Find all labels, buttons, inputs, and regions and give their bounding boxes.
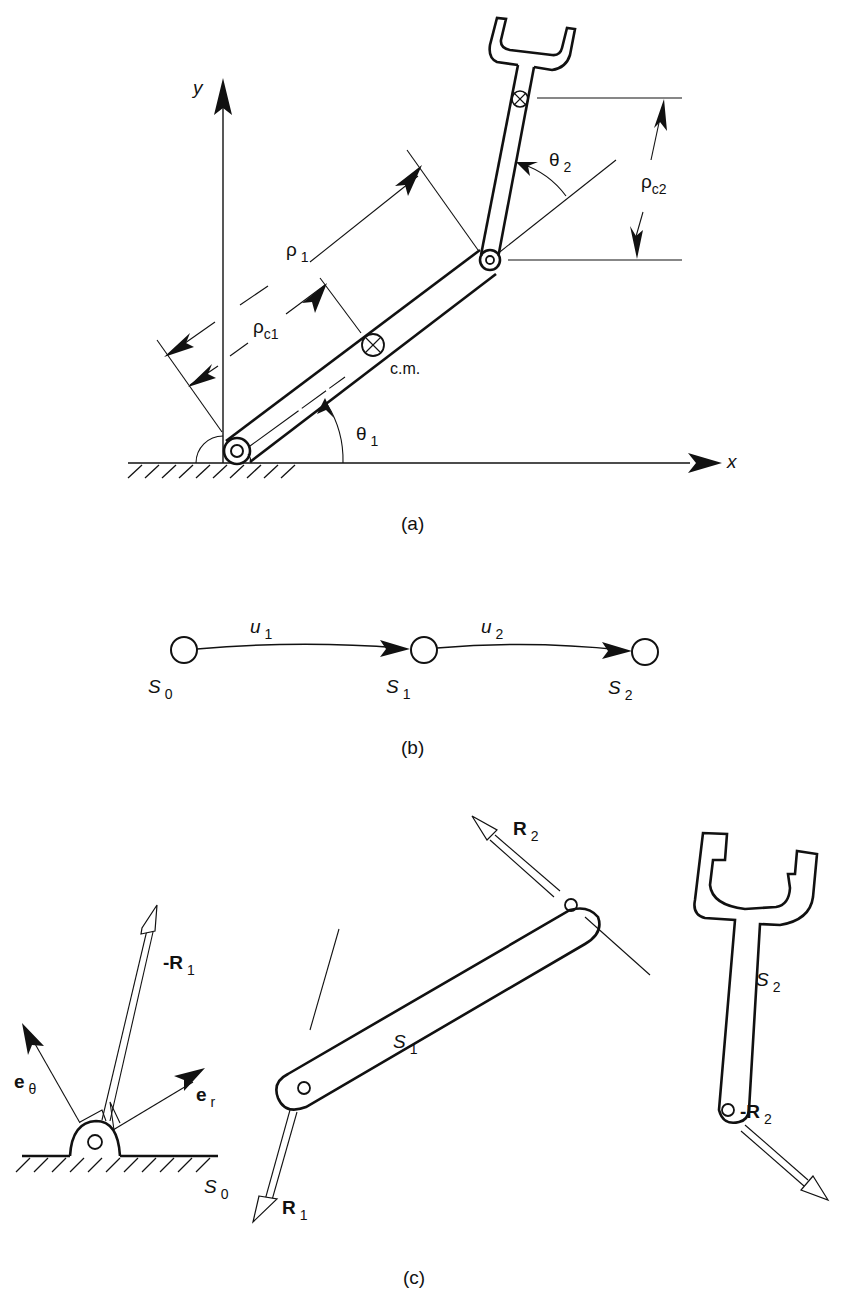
s1-label: S1 xyxy=(393,1032,417,1051)
edge-u1 xyxy=(197,644,400,649)
neg-r2-force-arrow xyxy=(741,1125,828,1200)
node-s2 xyxy=(632,639,658,665)
rhoc1-dim-line-mid xyxy=(230,343,248,356)
e-theta-arrowhead-icon xyxy=(22,1023,44,1055)
rho1-dim-line-mid xyxy=(240,286,268,305)
ground-hatch-a xyxy=(128,465,295,478)
edge-u2-arrowhead-icon xyxy=(602,642,632,659)
r2-label: R2 xyxy=(513,819,539,838)
e-theta-vector xyxy=(30,1035,80,1123)
panel-a xyxy=(128,18,722,478)
rhoc1-extension-tip xyxy=(320,278,361,333)
rho1-extension-tip xyxy=(407,150,478,250)
neg-r1-label: -R1 xyxy=(163,953,195,972)
node-s1 xyxy=(411,637,437,663)
r1-label: R1 xyxy=(282,1198,308,1217)
center-of-mass-1-icon xyxy=(362,334,384,356)
x-axis-arrowhead-icon xyxy=(688,453,722,473)
e-r-vector xyxy=(113,1082,193,1130)
s2-label: S2 xyxy=(756,970,780,989)
node-s0-label: S0 xyxy=(148,677,172,696)
e-r-label: er xyxy=(196,1085,215,1104)
rho1-label: ρ1 xyxy=(286,240,309,259)
neg-r1-force-arrow xyxy=(102,905,157,1121)
s1-reference-line-left xyxy=(310,929,339,1030)
node-s1-label: S1 xyxy=(386,677,410,696)
rho1-arrowhead-left-icon xyxy=(164,333,194,357)
rhoc2-arrowhead-bottom-icon xyxy=(630,226,643,259)
rhoc1-arrowhead-left-icon xyxy=(188,364,216,387)
ground-s0-c xyxy=(16,1121,218,1172)
edge-u2-label: u2 xyxy=(481,617,503,636)
s1-reference-line-right xyxy=(585,917,650,975)
node-s2-label: S2 xyxy=(608,678,632,697)
caption-b: (b) xyxy=(401,737,424,759)
rhoc2-arrowhead-top-icon xyxy=(654,99,667,131)
edge-u1-label: u1 xyxy=(250,617,272,636)
y-axis-label: y xyxy=(193,78,203,97)
edge-u1-arrowhead-icon xyxy=(380,640,410,657)
neg-r2-label: -R2 xyxy=(740,1102,772,1121)
s0-label: S0 xyxy=(204,1177,228,1196)
rhoc1-arrowhead-right-icon xyxy=(302,283,327,313)
e-theta-label: eθ xyxy=(14,1072,36,1091)
caption-c: (c) xyxy=(403,1267,425,1289)
rho1-dim-line-right xyxy=(310,176,418,262)
theta1-label: θ1 xyxy=(356,424,378,443)
node-s0 xyxy=(171,637,197,663)
theta2-label: θ2 xyxy=(549,150,571,169)
panel-c xyxy=(16,816,828,1222)
link-s1-c xyxy=(276,899,599,1110)
caption-a: (a) xyxy=(401,513,424,535)
rhoc1-label: ρc1 xyxy=(253,317,279,336)
panel-b xyxy=(171,637,658,665)
center-of-mass-label: c.m. xyxy=(390,361,420,377)
x-axis-label: x xyxy=(727,452,737,471)
edge-u2 xyxy=(437,644,622,650)
diagram-canvas xyxy=(0,0,854,1311)
base-pivot-a xyxy=(196,436,223,463)
gripper-link-2-a xyxy=(480,18,575,270)
rhoc2-label: ρc2 xyxy=(641,172,667,191)
